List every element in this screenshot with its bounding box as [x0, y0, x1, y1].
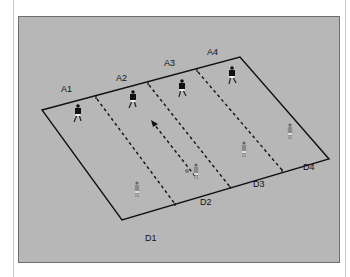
defender-player-d3 — [242, 141, 246, 158]
arrowhead-icon — [151, 120, 158, 127]
divider-2 — [149, 85, 230, 187]
label-d4: D4 — [303, 162, 315, 172]
label-d3: D3 — [253, 179, 265, 189]
defender-player-d2 — [194, 163, 198, 180]
divider-3 — [198, 72, 282, 170]
label-a4: A4 — [207, 47, 218, 57]
label-a3: A3 — [164, 58, 175, 68]
defender-player-d1 — [135, 181, 139, 198]
field-outline — [42, 57, 329, 220]
attacker-player-a4 — [229, 66, 236, 84]
pass-arrow — [151, 120, 195, 176]
label-d2: D2 — [200, 197, 212, 207]
label-a2: A2 — [116, 73, 127, 83]
bottom-edge-ticks — [175, 169, 282, 206]
attacker-player-a3 — [179, 79, 186, 97]
defender-player-d4 — [288, 123, 292, 140]
attacker-player-a2 — [129, 90, 136, 108]
ball-icon — [185, 169, 189, 173]
drill-field-diagram: A1 A2 A3 A4 D1 D2 D3 D4 — [0, 0, 350, 277]
attacker-player-a1 — [74, 104, 81, 122]
label-d1: D1 — [145, 233, 157, 243]
label-a1: A1 — [61, 84, 72, 94]
